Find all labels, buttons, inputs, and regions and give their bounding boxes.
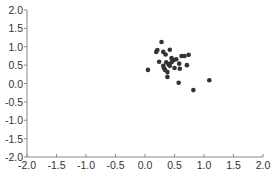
- x-tick-label: -1.0: [77, 159, 95, 171]
- data-point: [167, 47, 172, 52]
- data-point: [165, 75, 170, 80]
- y-tick-label: 0.0: [8, 78, 23, 90]
- x-tick-label: 0.5: [167, 159, 182, 171]
- data-point: [177, 61, 182, 66]
- data-point: [176, 80, 181, 85]
- data-point: [163, 52, 168, 57]
- y-tick-label: -0.5: [5, 96, 23, 108]
- data-point: [207, 78, 212, 83]
- data-point: [185, 63, 190, 68]
- data-point: [191, 88, 196, 93]
- y-tick-label: -1.0: [5, 114, 23, 126]
- data-point: [146, 68, 151, 73]
- data-point: [174, 57, 179, 62]
- x-tick-label: 2.0: [256, 159, 271, 171]
- data-point: [155, 48, 160, 53]
- scatter-chart: 2.01.51.00.50.0-0.5-1.0-1.5-2.0 -2.0-1.5…: [0, 0, 271, 191]
- y-tick-label: -1.5: [5, 133, 23, 145]
- y-tick-label: 1.0: [8, 41, 23, 53]
- data-point: [159, 40, 164, 45]
- data-point: [172, 66, 177, 71]
- data-point: [167, 64, 172, 69]
- y-tick-label: 2.0: [8, 4, 23, 16]
- x-tick-label: 1.0: [197, 159, 212, 171]
- data-point: [157, 60, 162, 65]
- x-tick-label: 0.0: [138, 159, 153, 171]
- y-tick-label: 0.5: [8, 59, 23, 71]
- x-tick-label: -2.0: [18, 159, 36, 171]
- data-point: [182, 54, 187, 59]
- x-tick-label: 1.5: [226, 159, 241, 171]
- data-point: [165, 70, 170, 75]
- data-points: [146, 40, 212, 93]
- y-axis-ticks: 2.01.51.00.50.0-0.5-1.0-1.5-2.0: [5, 4, 27, 163]
- x-tick-label: -1.5: [47, 159, 65, 171]
- x-tick-label: -0.5: [106, 159, 124, 171]
- y-tick-label: 1.5: [8, 22, 23, 34]
- data-point: [186, 53, 191, 58]
- data-point: [178, 67, 183, 72]
